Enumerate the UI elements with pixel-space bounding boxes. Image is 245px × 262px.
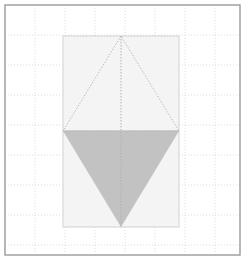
geometry-figure [0, 0, 245, 262]
diagram-canvas [0, 0, 245, 262]
